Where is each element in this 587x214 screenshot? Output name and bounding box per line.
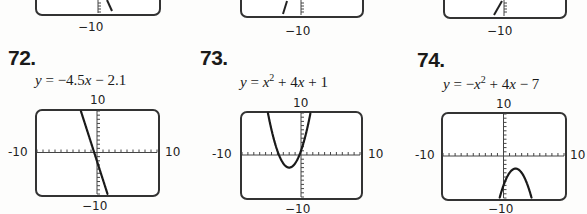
graph-74 [0,0,587,214]
